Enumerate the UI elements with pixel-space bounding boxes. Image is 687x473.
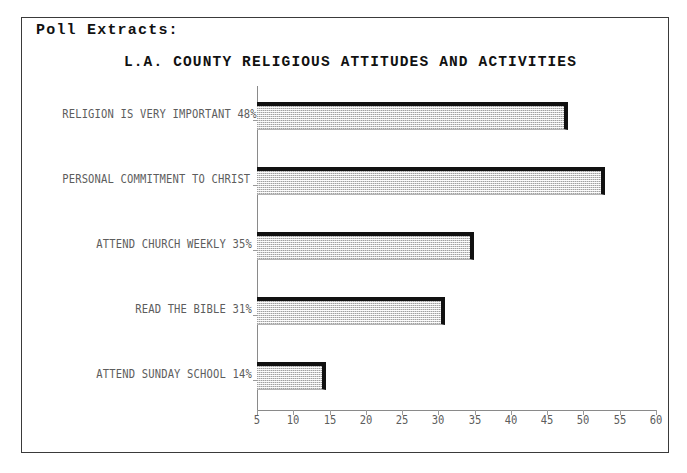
bar-attend-church-weekly xyxy=(257,232,474,260)
x-axis-label: 10 xyxy=(281,412,305,427)
x-axis-label: 30 xyxy=(426,412,450,427)
bar-category-label: PERSONAL COMMITMENT TO CHRIST 53% xyxy=(62,171,252,186)
value-axis-line xyxy=(257,410,656,411)
x-axis-label: 20 xyxy=(354,412,378,427)
bar-category-label: ATTEND CHURCH WEEKLY 35% xyxy=(62,236,252,251)
x-axis-label: 15 xyxy=(318,412,342,427)
bar-read-the-bible xyxy=(257,297,445,325)
x-axis-label: 25 xyxy=(390,412,414,427)
x-axis-label: 60 xyxy=(644,412,668,427)
bar-chart-plot-area: RELIGION IS VERY IMPORTANT 48% PERSONAL … xyxy=(0,0,687,473)
bar-attend-sunday-school xyxy=(257,362,326,390)
x-axis-label: 55 xyxy=(608,412,632,427)
bar-personal-commitment-to-christ xyxy=(257,167,605,195)
x-axis-label: 5 xyxy=(245,412,269,427)
bar-religion-is-very-important xyxy=(257,102,568,130)
bar-category-label: RELIGION IS VERY IMPORTANT 48% xyxy=(62,106,252,121)
x-axis-label: 40 xyxy=(499,412,523,427)
x-axis-label: 50 xyxy=(571,412,595,427)
poll-extract-page: Poll Extracts: L.A. COUNTY RELIGIOUS ATT… xyxy=(0,0,687,473)
bar-category-label: READ THE BIBLE 31% xyxy=(62,301,252,316)
x-axis-label: 35 xyxy=(463,412,487,427)
bar-category-label: ATTEND SUNDAY SCHOOL 14% xyxy=(62,366,252,381)
x-axis-label: 45 xyxy=(535,412,559,427)
